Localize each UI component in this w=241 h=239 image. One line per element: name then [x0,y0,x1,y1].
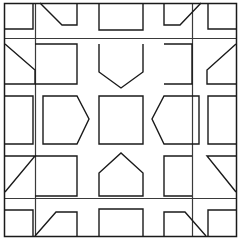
pattern-canvas [0,0,241,239]
geometric-pattern-figure [0,0,241,239]
figure-background [0,0,241,239]
